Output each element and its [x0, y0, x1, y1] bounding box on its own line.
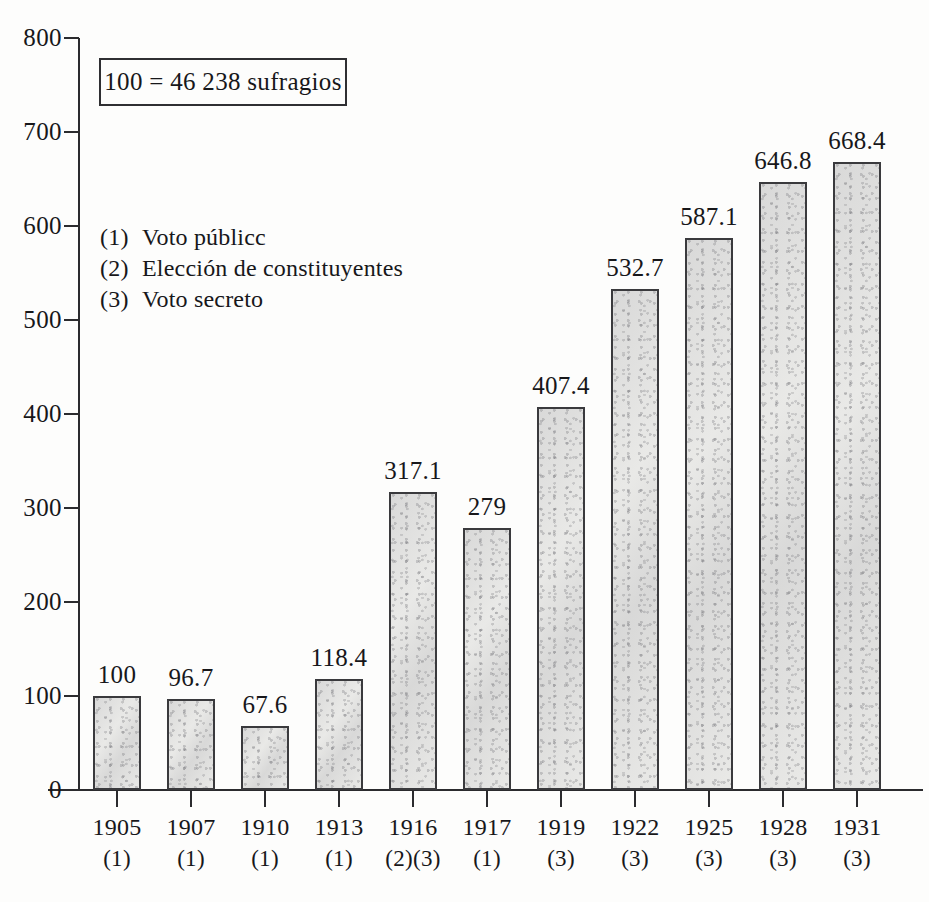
- y-axis-tick: [64, 131, 79, 133]
- bar-value-label: 587.1: [649, 204, 769, 229]
- x-axis-tick: [634, 791, 636, 807]
- bar-value-label: 317.1: [353, 458, 473, 483]
- x-axis-tick: [264, 791, 266, 807]
- legend-label: Voto públicc: [142, 222, 266, 253]
- x-axis-tick: [782, 791, 784, 807]
- y-axis-tick: [64, 413, 79, 415]
- x-axis-note-label: (3): [807, 844, 907, 874]
- x-axis-tick: [412, 791, 414, 807]
- bar: [611, 289, 659, 790]
- y-axis-tick-label: 200: [4, 589, 62, 614]
- x-axis-year-label: 1931: [807, 812, 907, 842]
- legend-item: (3) Voto secreto: [100, 284, 403, 315]
- bar: [389, 492, 437, 790]
- x-axis-tick: [708, 791, 710, 807]
- x-axis-tick: [116, 791, 118, 807]
- bar: [93, 696, 141, 790]
- y-axis-tick-label: 100: [4, 683, 62, 708]
- y-axis-tick-label: 600: [4, 213, 62, 238]
- y-axis-tick-label: 0: [4, 777, 62, 802]
- bar: [241, 726, 289, 790]
- bar: [315, 679, 363, 790]
- y-axis-tick: [64, 225, 79, 227]
- y-axis-tick-label: 700: [4, 119, 62, 144]
- bar-value-label: 67.6: [205, 692, 325, 717]
- legend-marker: (2): [100, 253, 142, 284]
- bar-value-label: 532.7: [575, 255, 695, 280]
- bar-value-label: 279: [427, 494, 547, 519]
- y-axis-tick-label: 300: [4, 495, 62, 520]
- legend-label: Elección de constituyentes: [142, 253, 403, 284]
- bar-value-label: 407.4: [501, 373, 621, 398]
- bar-chart: 8007006005004003002001000 10096.767.6118…: [0, 0, 929, 902]
- bar: [537, 407, 585, 790]
- bar: [463, 528, 511, 790]
- y-axis-tick: [64, 601, 79, 603]
- bar-value-label: 118.4: [279, 645, 399, 670]
- y-axis-tick: [64, 37, 79, 39]
- legend-item: (1) Voto públicc: [100, 222, 403, 253]
- bar-value-label: 96.7: [131, 665, 251, 690]
- y-axis-tick: [64, 507, 79, 509]
- bar-value-label: 668.4: [797, 128, 917, 153]
- legend-marker: (3): [100, 284, 142, 315]
- legend: (1) Voto públicc (2) Elección de constit…: [100, 222, 403, 315]
- x-axis-tick: [338, 791, 340, 807]
- caption-text: 100 = 46 238 sufragios: [104, 68, 341, 96]
- legend-item: (2) Elección de constituyentes: [100, 253, 403, 284]
- x-axis-tick: [486, 791, 488, 807]
- x-axis-tick: [560, 791, 562, 807]
- y-axis-tick-label: 800: [4, 25, 62, 50]
- y-axis-tick: [64, 319, 79, 321]
- x-axis-tick: [856, 791, 858, 807]
- y-axis-tick: [64, 695, 79, 697]
- legend-marker: (1): [100, 222, 142, 253]
- x-axis-category: 1931(3): [807, 812, 907, 874]
- y-axis-tick-label: 400: [4, 401, 62, 426]
- y-axis-tick-label: 500: [4, 307, 62, 332]
- bar: [759, 182, 807, 790]
- bar: [685, 238, 733, 790]
- caption-box: 100 = 46 238 sufragios: [99, 58, 347, 106]
- x-axis-tick: [190, 791, 192, 807]
- bar: [833, 162, 881, 790]
- legend-label: Voto secreto: [142, 284, 263, 315]
- y-axis-tick: [64, 789, 79, 791]
